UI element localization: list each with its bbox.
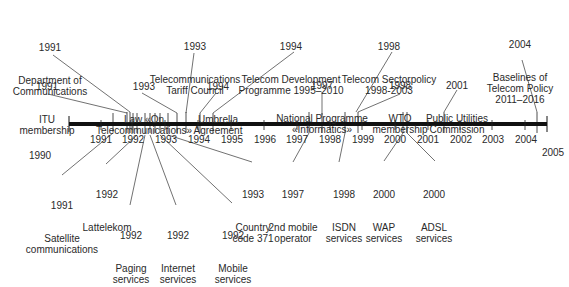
event-wto-membership: 1998 WTO membership: [372, 58, 427, 157]
event-text: Mobile services: [215, 263, 252, 285]
event-internet-services: 1992 Internet services: [160, 208, 197, 287]
event-year: 1998: [342, 41, 436, 52]
event-year: 1993: [150, 41, 241, 52]
year-label: 2004: [515, 134, 537, 145]
event-text: 2nd mobile operator: [269, 222, 318, 244]
event-paging-services: 1992 Paging services: [113, 208, 150, 287]
event-year: 1993: [232, 189, 273, 200]
event-text: WAP services: [366, 222, 403, 244]
event-country-code-371: 1993 Country code 371: [232, 167, 273, 266]
event-2nd-mobile-operator: 1997 2nd mobile operator: [269, 167, 318, 266]
event-itu-membership: 1991 ITU membership: [19, 59, 74, 158]
event-text: WTO membership: [372, 113, 427, 135]
event-year: 1994: [238, 41, 343, 52]
event-wap-services: 2000 WAP services: [366, 167, 403, 266]
event-year: 1992: [160, 230, 197, 241]
event-text: Country code 371: [232, 222, 273, 244]
event-text: Umbrella Agreement: [194, 114, 243, 136]
event-year: 1992: [113, 230, 150, 241]
event-text: ADSL services: [416, 222, 453, 244]
event-public-utilities-commission: 2001 Public Utilities Commission: [426, 58, 488, 157]
event-text: Internet services: [160, 263, 197, 285]
event-year: 1992: [83, 189, 132, 200]
event-text: Baselines of Telecom Policy 2011–2016: [487, 72, 554, 105]
event-umbrella-agreement: 1994 Umbrella Agreement: [194, 59, 243, 158]
event-year: 2000: [416, 189, 453, 200]
event-isdn-services: 1998 ISDN services: [326, 167, 363, 266]
event-year: 1991: [19, 81, 74, 92]
axis-end-year: 2005: [542, 147, 564, 158]
event-year: 1991: [13, 42, 87, 53]
event-baselines-of-telecom-policy: 2004 Baselines of Telecom Policy 2011–20…: [487, 17, 554, 127]
event-text: ISDN services: [326, 222, 363, 244]
event-year: 1997: [269, 189, 318, 200]
event-text: Public Utilities Commission: [426, 113, 488, 135]
event-text: ITU membership: [19, 114, 74, 136]
event-year: 1998: [326, 189, 363, 200]
event-year: 1994: [194, 81, 243, 92]
event-year: 2004: [487, 39, 554, 50]
event-adsl-services: 2000 ADSL services: [416, 167, 453, 266]
event-year: 2001: [426, 80, 488, 91]
event-year: 1998: [372, 80, 427, 91]
event-year: 2000: [366, 189, 403, 200]
year-label: 1996: [254, 134, 276, 145]
event-text: Paging services: [113, 263, 150, 285]
